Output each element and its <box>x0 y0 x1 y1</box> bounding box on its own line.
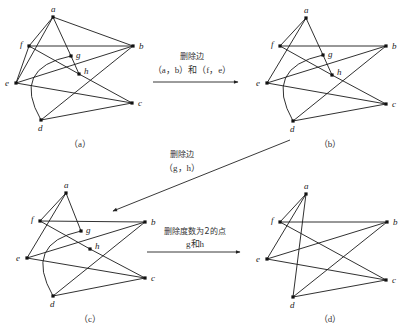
vertex-label-e: e <box>5 78 9 88</box>
panel-caption-b: （b） <box>319 139 342 149</box>
panel-caption-a: （a） <box>69 139 91 149</box>
vertex-label-c: c <box>138 98 142 108</box>
vertex-b <box>143 220 146 223</box>
vertex-e <box>14 81 17 84</box>
edge-a-f <box>40 193 66 221</box>
step-3-line1: 删除度数为2的点 <box>164 226 225 236</box>
edge-a-g <box>306 18 323 55</box>
edge-f-e <box>16 46 29 83</box>
vertex-label-d: d <box>290 124 295 134</box>
edge-a-d <box>293 194 306 297</box>
vertex-h <box>77 72 80 75</box>
vertex-label-g: g <box>86 225 91 235</box>
edge-a-e <box>267 18 306 83</box>
vertex-c <box>130 101 133 104</box>
vertex-label-a: a <box>51 4 56 14</box>
graph-panel-d: afbecd（d） <box>256 181 398 324</box>
vertex-label-e: e <box>256 78 260 88</box>
vertex-label-b: b <box>393 217 398 227</box>
arc-edge-d-g <box>283 55 323 121</box>
edge-e-b <box>267 46 386 83</box>
edge-e-c <box>27 258 145 278</box>
vertex-g <box>69 54 72 57</box>
vertex-b <box>384 44 387 47</box>
vertex-f <box>278 44 281 47</box>
graph-panel-c: afbghecd（c） <box>16 180 156 324</box>
step-3-line2: g和h <box>186 239 205 249</box>
edge-a-f <box>29 17 53 46</box>
vertex-label-c: c <box>392 275 396 285</box>
vertex-a <box>304 192 307 195</box>
vertex-label-g: g <box>328 49 333 59</box>
panel-caption-c: （c） <box>79 314 101 324</box>
vertex-h <box>88 247 91 250</box>
graph-panel-a: afbghecd（a） <box>5 4 144 149</box>
edge-d-c <box>293 104 386 121</box>
vertex-d <box>291 295 294 298</box>
edge-f-h <box>40 221 90 249</box>
vertex-f <box>38 219 41 222</box>
vertex-f <box>27 44 30 47</box>
vertex-c <box>384 102 387 105</box>
step-2-arrow <box>113 140 290 211</box>
vertex-label-h: h <box>84 66 89 76</box>
edge-d-b <box>293 46 386 121</box>
edge-a-f <box>280 194 306 222</box>
vertex-a <box>51 15 54 18</box>
vertex-label-d: d <box>38 123 43 133</box>
vertex-label-c: c <box>392 99 396 109</box>
vertex-a <box>64 191 67 194</box>
vertex-label-e: e <box>16 253 20 263</box>
vertex-d <box>51 294 54 297</box>
vertex-label-h: h <box>337 67 342 77</box>
vertex-label-a: a <box>304 181 309 191</box>
vertex-e <box>265 257 268 260</box>
edge-d-b <box>53 222 145 296</box>
step-1-line2: （a，b）和（f，e） <box>153 65 232 75</box>
vertex-label-c: c <box>151 273 155 283</box>
edge-d-c <box>293 280 386 297</box>
edge-e-b <box>267 222 387 259</box>
vertex-d <box>291 119 294 122</box>
panel-caption-d: （d） <box>319 314 342 324</box>
edge-e-c <box>267 259 386 280</box>
step-2-annotation: 删除边 （g，h） <box>113 140 290 211</box>
vertex-b <box>131 44 134 47</box>
edge-a-f <box>280 18 306 46</box>
vertex-label-f: f <box>20 39 24 49</box>
vertex-c <box>143 276 146 279</box>
vertex-a <box>304 16 307 19</box>
step-3-annotation: 删除度数为2的点 g和h <box>147 226 240 252</box>
vertex-label-f: f <box>271 39 275 49</box>
step-2-line1: 删除边 <box>170 149 194 159</box>
edge-d-b <box>293 222 387 297</box>
arc-edge-d-g <box>31 56 71 120</box>
vertex-label-b: b <box>392 41 397 51</box>
vertex-c <box>384 278 387 281</box>
edge-d-c <box>53 278 145 296</box>
vertex-b <box>385 220 388 223</box>
vertex-label-g: g <box>76 50 81 60</box>
vertex-label-d: d <box>50 299 55 309</box>
edge-d-c <box>41 103 132 120</box>
vertex-label-b: b <box>151 217 156 227</box>
edge-f-h <box>29 46 79 74</box>
step-1-line1: 删除边 <box>180 51 204 61</box>
vertex-g <box>321 53 324 56</box>
vertex-h <box>330 73 333 76</box>
edge-d-b <box>41 46 133 120</box>
vertex-label-h: h <box>95 241 100 251</box>
vertex-label-a: a <box>304 5 309 15</box>
graph-reduction-figure: afbghecd（a）afbghecd（b）afbghecd（c）afbecd（… <box>0 0 402 334</box>
vertex-label-a: a <box>64 180 69 190</box>
vertex-label-b: b <box>139 41 144 51</box>
edge-a-g <box>66 193 81 231</box>
vertex-g <box>79 229 82 232</box>
vertex-label-d: d <box>290 300 295 310</box>
vertex-e <box>265 81 268 84</box>
vertex-label-f: f <box>31 214 35 224</box>
vertex-label-e: e <box>256 254 260 264</box>
vertex-f <box>278 220 281 223</box>
vertex-e <box>25 256 28 259</box>
graph-panel-b: afbghecd（b） <box>256 5 397 149</box>
